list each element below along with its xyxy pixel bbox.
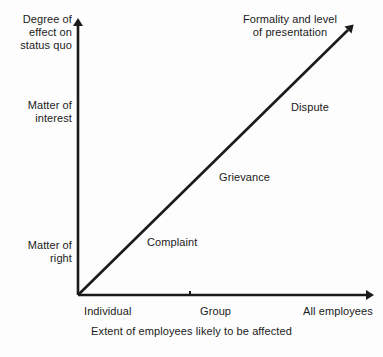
- x-axis-tick-label-group: Group: [200, 305, 231, 318]
- y-axis-tick-label-matter-of-right: Matter of right: [2, 239, 72, 265]
- x-axis-title: Extent of employees likely to be affecte…: [0, 325, 383, 338]
- diagram-axes: [0, 0, 383, 357]
- y-axis-title: Degree of effect on status quo: [2, 13, 72, 52]
- diagonal-arrow-line: [78, 30, 348, 295]
- y-axis-tick-label-matter-of-interest: Matter of interest: [2, 99, 72, 125]
- stage-label-dispute: Dispute: [291, 101, 329, 114]
- stage-label-complaint: Complaint: [147, 236, 197, 249]
- escalation-diagram: Degree of effect on status quo Matter of…: [0, 0, 383, 357]
- x-axis-tick-label-all-employees: All employees: [303, 305, 373, 318]
- stage-label-grievance: Grievance: [219, 171, 270, 184]
- x-axis-tick-label-individual: Individual: [84, 305, 131, 318]
- diagonal-axis-title: Formality and level of presentation: [234, 13, 346, 39]
